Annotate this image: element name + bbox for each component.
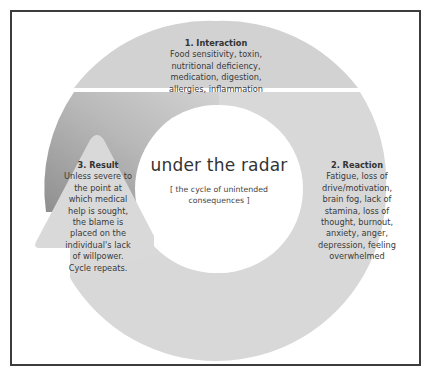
diagram-title: under the radar [139, 155, 299, 175]
step-3-body: Unless severe to the point at which medi… [62, 171, 134, 274]
step-1-body: Food sensitivity, toxin, nutritional def… [160, 49, 272, 95]
step-3-label: 3. Result Unless severe to the point at … [62, 160, 134, 274]
step-2-label: 2. Reaction Fatigue, loss of drive/motiv… [318, 160, 396, 263]
diagram-subtitle: [ the cycle of unintended consequences ] [149, 184, 289, 206]
step-2-body: Fatigue, loss of drive/motivation, brain… [318, 171, 396, 262]
step-1-title: 1. Interaction [160, 38, 272, 49]
step-2-title: 2. Reaction [318, 160, 396, 171]
step-3-title: 3. Result [62, 160, 134, 171]
step-1-label: 1. Interaction Food sensitivity, toxin, … [160, 38, 272, 95]
